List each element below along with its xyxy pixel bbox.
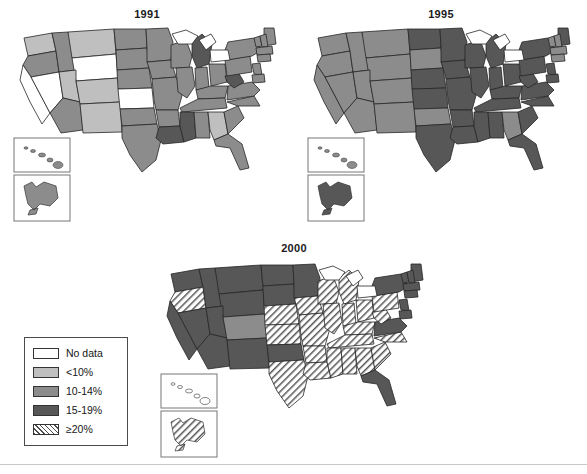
state-CT: [257, 54, 271, 62]
10-14-swatch: [33, 386, 59, 397]
legend-label-10-14: 10-14%: [66, 386, 102, 397]
state-NE: [264, 304, 299, 325]
state-NJ: [399, 299, 409, 311]
state-OH: [209, 64, 227, 86]
map-panel-1991: 1991: [6, 6, 288, 228]
map-legend: No data <10% 10-14% 15-19% ≥20%: [24, 337, 128, 446]
state-SC: [518, 106, 538, 134]
lake-erie: [210, 50, 230, 62]
state-CT: [404, 290, 418, 298]
choropleth-map-1991: [6, 20, 288, 228]
state-SC: [224, 106, 244, 134]
state-MD: [252, 74, 265, 83]
state-NJ: [546, 63, 556, 75]
state-WY: [72, 54, 118, 81]
state-AR: [156, 110, 180, 127]
legend-label-lt-10: <10%: [66, 367, 93, 378]
state-MD: [399, 310, 412, 319]
state-AR: [303, 346, 327, 363]
state-LA: [303, 362, 331, 380]
state-MD: [546, 74, 559, 83]
state-KS: [118, 88, 154, 109]
state-MT: [215, 265, 263, 294]
inset-alaska-1995: [308, 175, 364, 221]
state-OH: [503, 64, 521, 86]
legend-item-15-19: 15-19%: [33, 401, 121, 420]
state-MA: [403, 282, 420, 291]
map-panel-2000: 2000: [153, 240, 435, 466]
state-ND: [408, 29, 441, 50]
legend-label-ge-20: ≥20%: [66, 424, 93, 435]
state-KS: [265, 324, 301, 345]
legend-item-lt-10: <10%: [33, 363, 121, 382]
state-FL: [508, 134, 543, 170]
choropleth-map-1995: [300, 20, 582, 228]
state-IN: [489, 67, 503, 90]
state-FL: [361, 370, 396, 406]
figure-canvas: 1991: [0, 0, 587, 474]
no-data-swatch: [33, 348, 59, 359]
state-ND: [114, 29, 147, 50]
lake-erie: [357, 286, 377, 298]
inset-hawaii-1991: [14, 138, 70, 172]
state-NE: [117, 68, 152, 89]
state-SD: [410, 48, 443, 70]
state-IN: [342, 303, 356, 326]
legend-item-ge-20: ≥20%: [33, 420, 121, 439]
state-OK: [414, 108, 451, 126]
state-TN: [474, 98, 521, 112]
state-MN: [293, 264, 320, 298]
state-OK: [267, 344, 304, 362]
legend-item-no-data: No data: [33, 344, 121, 363]
inset-alaska-1991: [14, 175, 70, 221]
state-WY: [366, 54, 412, 81]
ge-20-swatch: [33, 424, 59, 435]
state-AL: [488, 112, 504, 138]
choropleth-map-2000: [153, 254, 435, 466]
legend-label-15-19: 15-19%: [66, 405, 102, 416]
state-OK: [120, 108, 157, 126]
state-NJ: [252, 63, 262, 75]
state-NE: [411, 68, 446, 89]
inset-alaska-2000: [161, 411, 217, 457]
state-OH: [356, 300, 374, 322]
panel-title-1995: 1995: [300, 8, 582, 20]
state-NM: [80, 102, 122, 133]
state-MT: [68, 29, 116, 58]
legend-label-no-data: No data: [66, 348, 103, 359]
state-TN: [327, 334, 374, 348]
state-CO: [76, 78, 120, 104]
panel-title-2000: 2000: [153, 242, 435, 254]
state-NM: [227, 338, 269, 369]
map-panel-1995: 1995: [300, 6, 582, 228]
state-SD: [116, 48, 149, 70]
state-IN: [195, 67, 209, 90]
state-WY: [219, 290, 265, 317]
lt-10-swatch: [33, 367, 59, 378]
state-SD: [263, 284, 296, 306]
state-AL: [194, 112, 210, 138]
state-MT: [362, 29, 410, 58]
lake-erie: [504, 50, 524, 62]
bottom-divider: [0, 464, 587, 465]
legend-item-10-14: 10-14%: [33, 382, 121, 401]
state-CT: [551, 54, 565, 62]
inset-hawaii-2000: [161, 374, 217, 408]
state-KS: [412, 88, 448, 109]
state-MN: [146, 28, 173, 62]
state-TX: [122, 124, 161, 172]
state-SC: [371, 342, 391, 370]
state-CO: [223, 314, 267, 340]
state-LA: [156, 126, 184, 144]
state-MA: [256, 46, 273, 55]
state-LA: [450, 126, 478, 144]
inset-hawaii-1995: [308, 138, 364, 172]
state-TX: [416, 124, 455, 172]
state-FL: [214, 134, 249, 170]
state-MA: [550, 46, 567, 55]
state-NM: [374, 102, 416, 133]
state-ND: [261, 265, 294, 286]
state-TX: [269, 360, 308, 408]
state-AR: [450, 110, 474, 127]
state-CO: [370, 78, 414, 104]
